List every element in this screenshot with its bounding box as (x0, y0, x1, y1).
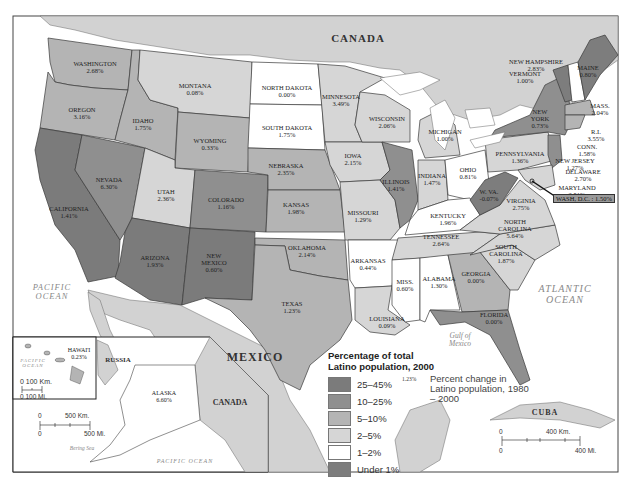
state-label: TEXAS1.23% (282, 300, 303, 314)
state-label: MICHIGAN1.00% (428, 128, 461, 142)
state-label: ILLINOIS1.41% (382, 178, 409, 192)
dc-callout: WASH, D.C. : 1.50% (553, 194, 615, 203)
state-label: INDIANA1.47% (418, 172, 446, 186)
state-label: MONTANA0.08% (179, 82, 212, 96)
legend-title-line2: Latino population, 2000 (328, 361, 528, 372)
label-russia: RUSSIA (105, 356, 131, 364)
label-pacific-hawaii: PACIFIC OCEAN (18, 358, 48, 369)
state-label: NEW HAMPSHIRE2.83% (509, 58, 563, 72)
state-label: ALASKA6.60% (152, 390, 176, 404)
state-label: VERMONT1.00% (509, 70, 541, 84)
legend-swatch (328, 445, 351, 460)
state-label: NEW MEXICO0.60% (194, 252, 234, 273)
state-label: TENNESSEE2.64% (423, 233, 459, 247)
state-label: UTAH2.36% (157, 188, 175, 202)
state-label: KANSAS1.98% (283, 201, 309, 215)
state-label: KENTUCKY1.96% (430, 212, 466, 226)
label-atlantic-ocean: ATLANTIC OCEAN (530, 284, 600, 305)
legend-item: 2–5% (328, 427, 528, 444)
main-scale-km: 400 Km. (546, 428, 570, 435)
legend: Percentage of total Latino population, 2… (328, 350, 528, 478)
state-label: W. VA.-0.07% (480, 188, 499, 202)
state-label: ARKANSAS0.44% (350, 257, 385, 271)
state-label: CONN.1.58% (577, 143, 597, 157)
hawaii-scale-mi: 0 100 Mi. (20, 393, 47, 400)
state-label: ALABAMA1.30% (423, 275, 456, 289)
legend-item: 5–10% (328, 410, 528, 427)
state-label: OKLAHOMA2.14% (288, 244, 326, 258)
legend-item: Under 1% (328, 461, 528, 478)
state-label: IDAHO1.75% (133, 117, 154, 131)
state-label: WASHINGTON2.68% (73, 60, 116, 74)
state-label: DELAWARE2.70% (565, 168, 600, 182)
alaska-scale-mi: 500 Mi. (84, 430, 105, 437)
label-canada: CANADA (331, 32, 385, 44)
main-scale-km-zero: 0 (499, 428, 503, 435)
state-label: NEW YORK0.73% (528, 108, 553, 129)
state-label: NORTH DAKOTA0.00% (262, 84, 313, 98)
legend-swatch (328, 428, 351, 443)
state-label: COLORADO1.16% (208, 196, 244, 210)
state-label: VIRGINIA2.75% (506, 197, 536, 211)
state-label: HAWAI'I0.23% (68, 347, 91, 361)
alaska-scale-km-zero: 0 (38, 412, 42, 419)
state-label: MASS.2.04% (590, 102, 609, 116)
legend-item: 1–2% (328, 444, 528, 461)
state-label: FLORIDA0.00% (480, 311, 508, 325)
label-gulf-of-mexico: Gulf of Mexico (439, 332, 481, 348)
hawaii-scale-km: 0 100 Km. (20, 378, 52, 385)
state-label: GEORGIA0.00% (461, 270, 490, 284)
state-label: NORTH CAROLINA5.64% (495, 218, 535, 239)
label-bering-sea: Bering Sea (70, 446, 94, 452)
main-scale-mi-zero: 0 (499, 447, 503, 454)
legend-swatch (328, 462, 351, 477)
state-label: LOUISIANA0.09% (369, 315, 404, 329)
state-label: NEBRASKA2.35% (268, 162, 303, 176)
main-scale-mi: 400 Mi. (575, 447, 596, 454)
state-label: OHIO0.81% (460, 166, 477, 180)
alaska-scale-mi-zero: 0 (38, 430, 42, 437)
state-label: R.I.3.55% (588, 128, 605, 142)
legend-swatch (328, 394, 351, 409)
state-label: SOUTH CAROLINA1.87% (486, 243, 526, 264)
state-label: CALIFORNIA1.41% (49, 205, 88, 219)
label-pacific-alaska: PACIFIC OCEAN (157, 458, 213, 464)
legend-example-value: 1.23% (402, 376, 416, 382)
legend-example-text: Percent change in Latino population, 198… (430, 374, 530, 404)
label-pacific-ocean: PACIFIC OCEAN (26, 283, 78, 301)
label-canada-inset: CANADA (213, 398, 248, 407)
state-label: SOUTH DAKOTA1.75% (262, 124, 312, 138)
alaska-scale-km: 500 Km. (65, 412, 89, 419)
state-label: MAINE0.80% (577, 64, 598, 78)
state-label: ARIZONA1.93% (140, 254, 169, 268)
state-label: MISSOURI1.29% (347, 209, 378, 223)
legend-swatch (328, 411, 351, 426)
state-label: IOWA2.15% (345, 152, 362, 166)
legend-title-line1: Percentage of total (328, 350, 528, 361)
state-label: NEVADA6.30% (96, 176, 123, 190)
state-label: MINNESOTA3.49% (322, 93, 360, 107)
label-cuba: CUBA (532, 408, 559, 417)
state-label: OREGON3.16% (68, 106, 95, 120)
state-label: MISS.0.60% (397, 278, 414, 292)
state-label: WYOMING0.33% (194, 137, 227, 151)
legend-swatch (328, 377, 351, 392)
state-label: WISCONSIN2.06% (369, 115, 405, 129)
label-mexico: MEXICO (227, 350, 284, 365)
state-label: PENNSYLVANIA1.36% (496, 150, 545, 164)
